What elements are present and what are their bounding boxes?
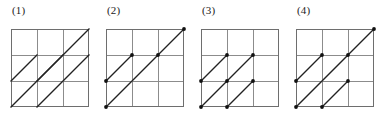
diagonal-segment <box>296 55 322 81</box>
grid-2 <box>103 26 187 110</box>
grid-4 <box>293 26 377 110</box>
diagonal-segment <box>322 81 348 107</box>
diagonal-segment <box>106 29 184 107</box>
vertex-dot <box>251 53 255 57</box>
vertex-dot <box>320 105 324 109</box>
figure-label-1: (1) <box>12 3 25 17</box>
diagonal-segment <box>201 55 227 81</box>
vertex-dot <box>320 53 324 57</box>
grid-3 <box>198 26 282 110</box>
vertex-dot <box>346 79 350 83</box>
diagonal-segment <box>227 81 253 107</box>
vertex-dot <box>251 79 255 83</box>
vertex-dot <box>225 105 229 109</box>
diagonal-segment <box>106 55 132 81</box>
panel-2: (2) <box>95 0 190 114</box>
vertex-dot <box>346 53 350 57</box>
figure-label-2: (2) <box>107 3 120 17</box>
figure-label-4: (4) <box>297 3 310 17</box>
vertex-dot <box>130 53 134 57</box>
grid-1 <box>8 26 92 110</box>
vertex-dot <box>294 79 298 83</box>
vertex-dot <box>225 53 229 57</box>
vertex-dot <box>372 27 376 31</box>
panel-4: (4) <box>285 0 380 114</box>
vertex-dot <box>199 105 203 109</box>
vertex-dot <box>104 79 108 83</box>
vertex-dot <box>104 105 108 109</box>
vertex-dot <box>294 105 298 109</box>
vertex-dot <box>225 79 229 83</box>
panel-1: (1) <box>0 0 95 114</box>
panel-3: (3) <box>190 0 285 114</box>
vertex-dot <box>199 79 203 83</box>
figure-label-3: (3) <box>202 3 215 17</box>
figure-strip: (1)(2)(3)(4) <box>0 0 381 114</box>
vertex-dot <box>156 53 160 57</box>
diagonal-segment <box>296 29 374 107</box>
vertex-dot <box>182 27 186 31</box>
diagonal-segment <box>11 55 37 81</box>
